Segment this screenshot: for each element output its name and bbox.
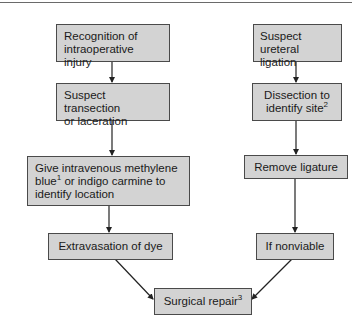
box-surgical-repair-label: Surgical repair3 bbox=[164, 295, 243, 308]
arrow-nonviable-to-repair bbox=[252, 259, 292, 299]
box-if-nonviable: If nonviable bbox=[256, 233, 334, 260]
text-blue: blue bbox=[35, 175, 57, 187]
box-give-iv-dye: Give intravenous methylene blue1 or indi… bbox=[27, 156, 190, 206]
box-recognition-line1: Recognition of bbox=[64, 30, 162, 43]
box-extravasation-label: Extravasation of dye bbox=[58, 240, 162, 253]
box-if-nonviable-label: If nonviable bbox=[266, 240, 325, 253]
footnote-2: 2 bbox=[324, 100, 328, 109]
box-recognition: Recognition of intraoperative injury bbox=[56, 24, 170, 62]
arrow-extravasation-to-repair bbox=[115, 259, 153, 299]
box-surgical-repair: Surgical repair3 bbox=[154, 288, 252, 315]
box-remove-ligature: Remove ligature bbox=[244, 155, 348, 179]
box-suspect-transection: Suspect transection or laceration bbox=[56, 83, 170, 121]
box-dissection-line2: identify site2 bbox=[253, 102, 341, 115]
box-extravasation: Extravasation of dye bbox=[48, 233, 173, 260]
footnote-3: 3 bbox=[238, 293, 242, 302]
box-dissection: Dissection to identify site2 bbox=[252, 83, 342, 121]
box-suspect-ligation-line1: Suspect bbox=[260, 30, 335, 43]
box-suspect-ligation: Suspect ureteral ligation bbox=[253, 24, 342, 62]
box-suspect-ligation-line2: ureteral ligation bbox=[260, 43, 335, 69]
box-suspect-transection-line1: Suspect transection bbox=[64, 89, 162, 115]
text-indigo: or indigo carmine to bbox=[61, 175, 165, 187]
box-give-iv-line3: identify location bbox=[35, 188, 182, 201]
text-surgical-repair: Surgical repair bbox=[164, 295, 238, 307]
box-recognition-line2: intraoperative injury bbox=[64, 43, 162, 69]
box-remove-ligature-label: Remove ligature bbox=[254, 161, 338, 174]
box-suspect-transection-line2: or laceration bbox=[64, 115, 162, 128]
box-give-iv-line2: blue1 or indigo carmine to bbox=[35, 175, 182, 188]
text-identify-site: identify site bbox=[266, 102, 324, 114]
